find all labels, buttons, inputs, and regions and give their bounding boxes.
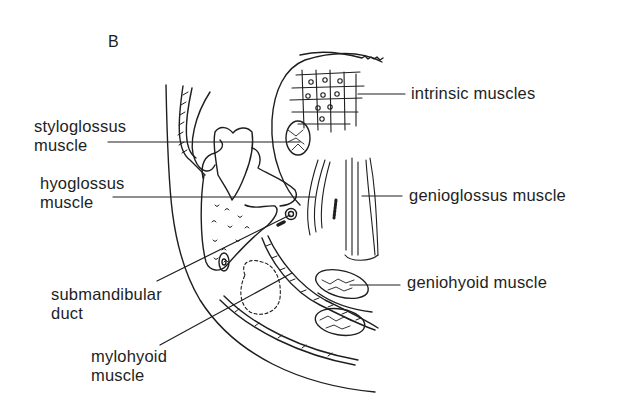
genioglossus-fibers [308, 158, 378, 260]
anatomy-drawing [0, 0, 628, 410]
tooth [214, 128, 252, 200]
mandible-inner [186, 88, 196, 158]
duct-opening [286, 209, 297, 220]
cheek-inner [192, 92, 215, 171]
leader-lines [108, 94, 405, 345]
intrinsic-muscle-grid [290, 70, 364, 132]
mandible-outer [179, 86, 205, 175]
gland-dots [212, 205, 249, 262]
mylohyoid-hatching [266, 244, 361, 320]
vessel [334, 200, 336, 218]
tongue-dorsum [300, 52, 383, 60]
mylohyoid-band-outer [268, 236, 378, 328]
gum-left [202, 140, 222, 178]
styloglossus-section [286, 121, 310, 155]
leader-mylohyoid [160, 273, 292, 345]
outer-contour [166, 85, 375, 392]
lingual-nerve [278, 222, 284, 225]
submandibular-gland [241, 261, 280, 315]
